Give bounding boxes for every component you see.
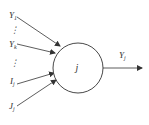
input-arrow-0	[17, 17, 60, 46]
input-arrow-2	[17, 44, 55, 53]
ellipsis-dots: ⋮	[10, 58, 19, 68]
input-label-i-j: Ij	[9, 76, 15, 87]
input-label-y-1-subscript: 1	[14, 15, 17, 21]
input-label-j-j: Jj	[9, 101, 15, 112]
output-label-y-j: Yj	[119, 50, 126, 61]
neuron-diagram: j Y1⋮Yk⋮IjJjYj	[0, 0, 149, 125]
input-arrow-5	[17, 80, 56, 106]
input-label-i-j-subscript: j	[12, 81, 15, 87]
input-label-j-j-subscript: j	[12, 106, 15, 112]
input-arrow-4	[17, 73, 54, 84]
input-label-y-1: Y1	[9, 10, 17, 21]
output-label-y-j-subscript: j	[123, 55, 126, 61]
input-label-y-k-subscript: k	[14, 44, 17, 50]
input-label-y-k: Yk	[9, 39, 17, 50]
ellipsis-dots: ⋮	[10, 25, 19, 35]
